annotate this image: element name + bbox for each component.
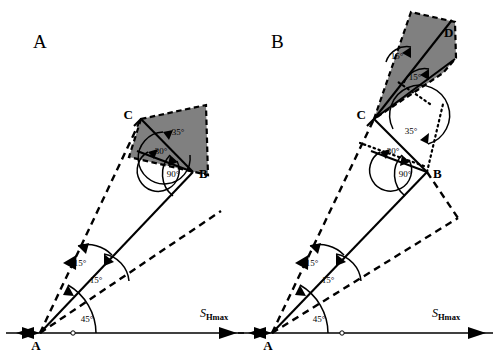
panel-a-vertex-label-c: C bbox=[124, 107, 133, 122]
panel-a-vertex-label-a: A bbox=[31, 338, 41, 353]
panel-b-line-ab bbox=[272, 172, 427, 333]
panel-b-angle-label-15-outer: 15° bbox=[306, 258, 319, 268]
panel-a-axis-label-sub: Hmax bbox=[206, 312, 229, 322]
panel-a-axis-label: SHmax bbox=[200, 306, 229, 322]
panel-b-dashed-bd-side bbox=[427, 172, 458, 218]
panel-b-axis-label: SHmax bbox=[432, 306, 461, 322]
panel-b-vertex-label-c: C bbox=[357, 107, 366, 122]
panel-b-vertex-label-b: B bbox=[433, 166, 442, 181]
panel-a-axis-arrow-right-icon bbox=[219, 327, 237, 339]
panel-b-group: B A B C D 45° 15° 15° 90° 30° 35° 15° 15… bbox=[238, 12, 493, 353]
panel-a-group: A A B C 45° 15° 15° 90° 30° 35° SHmax bbox=[6, 31, 244, 353]
figure-container: A A B C 45° 15° 15° 90° 30° 35° SHmax bbox=[0, 0, 499, 359]
panel-a-angle-label-90: 90° bbox=[167, 169, 180, 179]
panel-a-arc-45-arrow-icon bbox=[63, 285, 74, 296]
panel-a-angle-label-30: 30° bbox=[155, 146, 168, 156]
panel-a-vertex-label-b: B bbox=[199, 166, 208, 181]
panel-a-angle-label-15-outer: 15° bbox=[74, 258, 87, 268]
panel-b-arc-35-arrow-icon bbox=[420, 133, 429, 144]
panel-b-angle-label-15-fan-lower: 15° bbox=[409, 72, 422, 82]
geometry-diagram: A A B C 45° 15° 15° 90° 30° 35° SHmax bbox=[0, 0, 499, 359]
panel-a-angle-label-15-inner: 15° bbox=[90, 275, 103, 285]
panel-b-angle-label-15-inner: 15° bbox=[322, 275, 335, 285]
panel-b-angle-label-90: 90° bbox=[399, 169, 412, 179]
panel-b-axis-label-sub: Hmax bbox=[438, 312, 461, 322]
panel-b-label: B bbox=[271, 31, 284, 52]
panel-b-arc-45-arrow-icon bbox=[295, 285, 306, 296]
panel-b-vertex-label-a: A bbox=[263, 338, 273, 353]
panel-b-dotted-b-up bbox=[427, 104, 443, 172]
panel-a-axis-origin-marker bbox=[71, 331, 75, 335]
panel-a-arc-45 bbox=[68, 285, 96, 333]
panel-b-arc-45 bbox=[300, 285, 328, 333]
panel-b-angle-label-30: 30° bbox=[387, 146, 400, 156]
panel-b-angle-label-45: 45° bbox=[313, 314, 326, 324]
panel-a-label: A bbox=[33, 31, 47, 52]
panel-b-angle-label-35: 35° bbox=[405, 126, 418, 136]
panel-b-angle-label-15-fan-upper: 15° bbox=[391, 51, 404, 61]
panel-a-line-ab bbox=[40, 172, 193, 333]
panel-a-angle-label-45: 45° bbox=[81, 314, 94, 324]
panel-b-axis-arrow-right-icon bbox=[468, 327, 486, 339]
panel-a-dashed-ray-75 bbox=[40, 119, 141, 333]
panel-b-axis-origin-marker bbox=[340, 331, 344, 335]
panel-a-arc-15-outer-arrow-icon bbox=[78, 243, 89, 254]
panel-b-vertex-label-d: D bbox=[444, 25, 453, 40]
panel-a-dashed-ray-45 bbox=[40, 211, 221, 333]
panel-a-angle-label-35: 35° bbox=[172, 127, 185, 137]
